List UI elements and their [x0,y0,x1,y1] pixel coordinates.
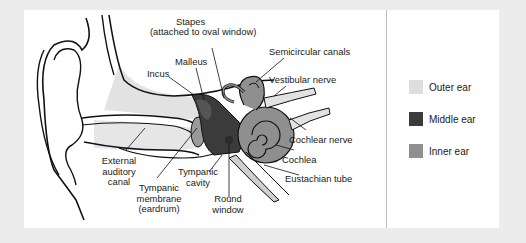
label-tympanic-cavity: Tympanic cavity [175,167,221,188]
legend: Outer ear Middle ear Inner ear [409,80,476,176]
label-eustachian-tube: Eustachian tube [285,174,352,185]
label-incus: Incus [147,69,169,80]
label-stapes-note: (attached to oval window) [150,27,256,38]
semicircular-canal-1 [239,76,264,110]
middle-ear-swatch [409,112,423,126]
label-cochlea: Cochlea [282,155,316,166]
pinna-rim [37,50,59,175]
legend-item-middle-ear: Middle ear [409,112,476,126]
label-cochlear-nerve: Cochlear nerve [289,135,353,146]
label-malleus: Malleus [175,57,207,68]
legend-item-inner-ear: Inner ear [409,144,476,158]
panel-divider [386,10,387,228]
cochlear-nerve-shape [289,108,330,130]
round-window-shape [225,136,233,144]
skull-line-outer [102,15,114,75]
pinna-inner-fold [54,49,83,185]
legend-item-outer-ear: Outer ear [409,80,476,94]
outer-ear-swatch [409,80,423,94]
label-vestibular-nerve: Vestibular nerve [269,75,336,86]
diagram-panel: Stapes (attached to oval window) Semicir… [24,10,499,228]
label-semicircular-canals: Semicircular canals [269,47,350,58]
vestibular-nerve-shape [264,88,316,108]
inner-ear-swatch [409,144,423,158]
label-round-window: Round window [206,194,250,215]
ear-anatomy-illustration [24,10,386,228]
